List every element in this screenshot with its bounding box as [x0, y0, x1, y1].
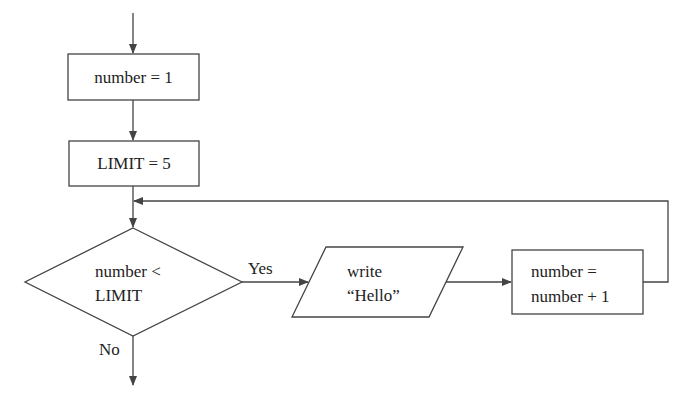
node-decision: number < LIMIT — [25, 228, 242, 336]
incr-line-2: number + 1 — [531, 287, 610, 306]
write-line-2: “Hello” — [347, 286, 400, 305]
no-label: No — [99, 340, 120, 359]
node-init: number = 1 — [68, 54, 199, 100]
decision-line-1: number < — [95, 262, 161, 281]
flowchart: number = 1 LIMIT = 5 number < LIMIT Yes … — [0, 0, 699, 400]
node-write: write “Hello” — [292, 247, 463, 317]
incr-line-1: number = — [531, 262, 597, 281]
node-limit-label: LIMIT = 5 — [97, 154, 171, 173]
node-increment: number = number + 1 — [512, 250, 643, 314]
decision-line-2: LIMIT — [95, 286, 143, 305]
node-init-label: number = 1 — [94, 68, 173, 87]
node-limit: LIMIT = 5 — [69, 141, 199, 186]
yes-label: Yes — [248, 259, 273, 278]
write-line-1: write — [347, 262, 382, 281]
